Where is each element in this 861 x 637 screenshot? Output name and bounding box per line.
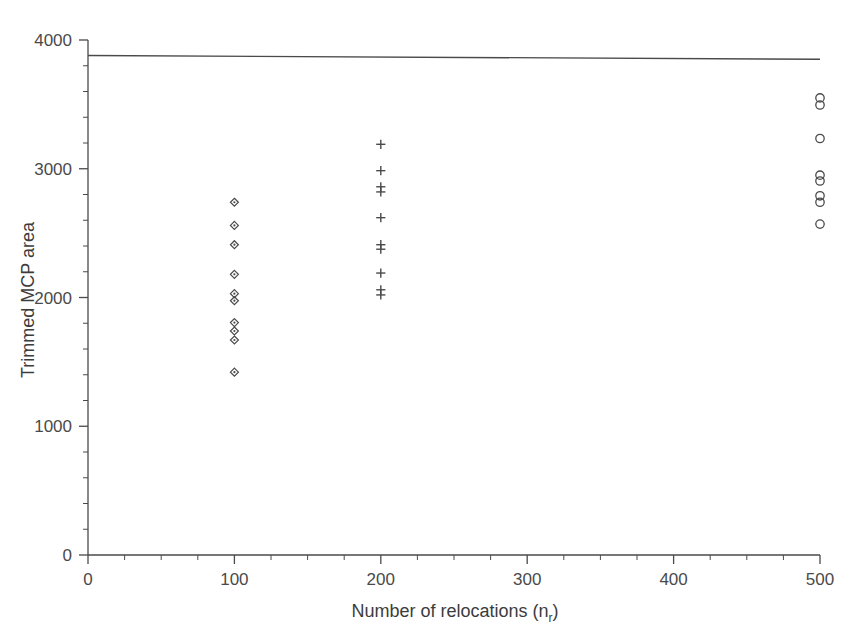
series-3 [816, 94, 824, 229]
marker-circle [816, 134, 824, 142]
figure-container: 0100200300400500 01000200030004000 Numbe… [0, 0, 861, 637]
marker-plus [376, 140, 385, 149]
x-axis-title: Number of relocations (nr) [351, 601, 558, 625]
x-tick-label: 100 [220, 570, 248, 589]
x-axis-title-close: ) [553, 601, 559, 621]
y-tick-label: 4000 [34, 31, 72, 50]
marker-diamond-center [233, 293, 235, 295]
marker-diamond-center [233, 339, 235, 341]
reference-line-path [88, 55, 820, 59]
marker-plus [376, 290, 385, 299]
marker-plus [376, 213, 385, 222]
x-tick-label: 0 [83, 570, 92, 589]
marker-circle [816, 220, 824, 228]
x-tick-label: 400 [659, 570, 687, 589]
marker-plus [376, 268, 385, 277]
marker-diamond-center [233, 371, 235, 373]
marker-plus [376, 245, 385, 254]
y-axis-tick-labels: 01000200030004000 [34, 31, 72, 565]
series-1 [230, 198, 238, 376]
caption-fragment [18, 612, 218, 630]
x-tick-label: 300 [513, 570, 541, 589]
marker-diamond-center [233, 224, 235, 226]
marker-diamond-center [233, 273, 235, 275]
y-tick-label: 0 [63, 546, 72, 565]
marker-diamond-center [233, 201, 235, 203]
series-2 [376, 140, 385, 300]
y-tick-label: 2000 [34, 289, 72, 308]
marker-circle [816, 177, 824, 185]
x-axis-minor-ticks [125, 555, 784, 560]
data-point-markers [230, 94, 824, 376]
marker-circle [816, 198, 824, 206]
y-tick-label: 3000 [34, 160, 72, 179]
marker-diamond-center [233, 244, 235, 246]
y-axis-title: Trimmed MCP area [18, 221, 38, 378]
marker-diamond-center [233, 322, 235, 324]
x-tick-label: 500 [806, 570, 834, 589]
x-axis-title-main: Number of relocations (n [351, 601, 548, 621]
marker-plus [376, 166, 385, 175]
reference-line [88, 55, 820, 59]
x-axis-tick-labels: 0100200300400500 [83, 570, 834, 589]
marker-diamond-center [233, 300, 235, 302]
marker-plus [376, 187, 385, 196]
x-tick-label: 200 [367, 570, 395, 589]
marker-diamond-center [233, 330, 235, 332]
scatter-plot: 0100200300400500 01000200030004000 Numbe… [0, 0, 861, 637]
axis-lines [88, 40, 820, 555]
y-tick-label: 1000 [34, 417, 72, 436]
